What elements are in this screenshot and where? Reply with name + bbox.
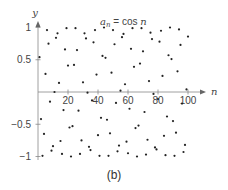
data-point — [163, 135, 165, 137]
data-point — [134, 127, 136, 129]
data-point — [122, 33, 124, 35]
data-point — [130, 48, 132, 50]
data-point — [83, 32, 85, 34]
data-point — [97, 134, 99, 136]
y-tick-label: 0.5 — [17, 54, 31, 65]
data-point — [92, 41, 94, 43]
data-point — [38, 56, 40, 58]
data-point — [95, 73, 97, 75]
data-point — [124, 83, 126, 85]
data-point — [128, 108, 130, 110]
data-point — [104, 57, 106, 59]
data-point — [119, 90, 121, 92]
data-point — [131, 27, 133, 29]
x-tick-label: 40 — [92, 95, 104, 106]
scatter-chart: y n 20406080100 10.5−0.5−1 an = cos n — [0, 0, 228, 190]
data-point — [71, 125, 73, 127]
data-point — [166, 115, 168, 117]
data-point — [44, 73, 46, 75]
data-point — [110, 72, 112, 74]
data-point — [50, 150, 52, 152]
data-point — [52, 145, 54, 147]
data-point — [176, 70, 178, 72]
data-point — [178, 28, 180, 30]
x-axis-arrow-icon — [200, 90, 206, 95]
data-point — [154, 146, 156, 148]
y-axis-arrow-icon — [36, 21, 41, 27]
data-point — [121, 36, 123, 38]
data-point — [127, 152, 129, 154]
data-point — [89, 149, 91, 151]
data-point — [140, 27, 142, 29]
data-point — [182, 151, 184, 153]
data-point — [80, 139, 82, 141]
data-point — [161, 75, 163, 77]
chart-title: an = cos n — [100, 16, 147, 29]
data-point — [146, 139, 148, 141]
data-point — [148, 80, 150, 82]
data-point — [160, 30, 162, 32]
data-point — [79, 153, 81, 155]
data-point — [139, 63, 141, 65]
figure-caption: (b) — [0, 168, 228, 182]
data-point — [169, 26, 171, 28]
data-point — [170, 58, 172, 60]
data-point — [40, 118, 42, 120]
data-point — [64, 48, 66, 50]
data-point — [109, 132, 111, 134]
data-point — [181, 103, 183, 105]
data-point — [47, 43, 49, 45]
data-point — [86, 92, 88, 94]
data-point — [113, 43, 115, 45]
data-point — [74, 27, 76, 29]
data-point — [143, 111, 145, 113]
data-point — [49, 101, 51, 103]
data-point — [53, 91, 55, 93]
data-point — [137, 124, 139, 126]
data-point — [145, 153, 147, 155]
data-point — [152, 93, 154, 95]
data-point — [136, 155, 138, 157]
data-point — [155, 148, 157, 150]
data-point — [173, 155, 175, 157]
data-point — [184, 144, 186, 146]
data-point — [157, 98, 159, 100]
data-point — [68, 126, 70, 128]
x-tick-label: 80 — [152, 95, 164, 106]
data-point — [77, 110, 79, 112]
data-point — [107, 155, 109, 157]
data-point — [167, 54, 169, 56]
y-tick-label: −0.5 — [11, 119, 31, 130]
data-point — [151, 38, 153, 40]
data-point — [103, 26, 105, 28]
data-point — [115, 102, 117, 104]
x-axis-label: n — [211, 86, 217, 97]
data-point — [172, 120, 174, 122]
data-point — [125, 141, 127, 143]
data-point — [46, 29, 48, 31]
data-point — [142, 50, 144, 52]
data-point — [85, 37, 87, 39]
data-point — [149, 32, 151, 34]
data-point — [76, 49, 78, 51]
data-point — [61, 153, 63, 155]
data-point — [179, 44, 181, 46]
data-point — [116, 150, 118, 152]
data-point — [82, 81, 84, 83]
data-point — [62, 109, 64, 111]
y-ticks: 10.5−0.5−1 — [11, 22, 40, 162]
data-point — [164, 154, 166, 156]
data-point — [91, 99, 93, 101]
y-tick-label: −1 — [20, 151, 32, 162]
y-axis: y — [31, 7, 40, 160]
data-point — [88, 146, 90, 148]
data-point — [112, 29, 114, 31]
x-tick-label: 60 — [122, 95, 134, 106]
data-point — [94, 29, 96, 31]
data-point — [100, 117, 102, 119]
data-point — [70, 155, 72, 157]
data-point — [43, 133, 45, 135]
data-point — [55, 37, 57, 39]
data-point — [175, 132, 177, 134]
data-point — [158, 41, 160, 43]
